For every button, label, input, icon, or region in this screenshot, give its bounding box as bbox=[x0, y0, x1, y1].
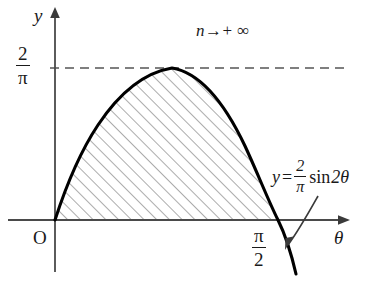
equation-argument: 2θ bbox=[331, 168, 349, 186]
fraction-2-over-pi: 2 π bbox=[16, 44, 30, 87]
fraction-denominator: π bbox=[294, 178, 306, 195]
theta-axis-label: θ bbox=[334, 228, 343, 247]
equation-lhs: y bbox=[272, 168, 280, 186]
x-tick-label-pi-over-2: π 2 bbox=[252, 226, 266, 269]
y-axis bbox=[50, 7, 60, 272]
origin-label: O bbox=[33, 228, 47, 247]
equation-coefficient-fraction: 2 π bbox=[294, 158, 306, 195]
limit-variable: n bbox=[196, 21, 205, 40]
fraction-bar bbox=[16, 65, 30, 66]
fraction-pi-over-2: π 2 bbox=[252, 226, 266, 269]
limit-annotation: n→+ ∞ bbox=[196, 22, 250, 39]
y-axis-label: y bbox=[34, 6, 42, 25]
fraction-bar bbox=[294, 176, 306, 177]
fraction-denominator: π bbox=[16, 67, 30, 87]
figure-canvas bbox=[0, 0, 388, 285]
fraction-numerator: 2 bbox=[294, 158, 306, 175]
math-figure: y θ O n→+ ∞ 2 π π 2 y = 2 π sin 2θ bbox=[0, 0, 388, 285]
equation-leader-arrow bbox=[285, 196, 318, 250]
equation-function-name: sin bbox=[309, 168, 330, 186]
fraction-denominator: 2 bbox=[252, 249, 266, 269]
y-tick-label-2-over-pi: 2 π bbox=[16, 44, 30, 87]
fraction-numerator: π bbox=[252, 226, 266, 246]
fraction-bar bbox=[252, 247, 266, 248]
fraction-numerator: 2 bbox=[16, 44, 30, 64]
curve-equation-label: y = 2 π sin 2θ bbox=[272, 158, 349, 195]
limit-target: + ∞ bbox=[223, 21, 250, 40]
equation-equals-sign: = bbox=[282, 168, 292, 186]
limit-arrow-icon: → bbox=[205, 21, 223, 40]
